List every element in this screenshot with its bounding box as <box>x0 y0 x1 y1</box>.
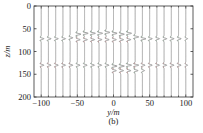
trace <box>90 6 95 97</box>
trace <box>185 6 188 97</box>
x-tick-label: −100 <box>32 98 50 108</box>
trace <box>76 6 81 97</box>
trace <box>170 6 174 97</box>
y-tick-label: 100 <box>18 47 31 57</box>
trace <box>97 6 102 97</box>
trace-line <box>126 6 131 97</box>
y-tick-label: 0 <box>27 1 31 11</box>
y-tick-label: 50 <box>23 24 32 34</box>
y-axis-label: z/m <box>2 46 12 59</box>
trace <box>119 6 125 97</box>
trace-line <box>47 6 51 97</box>
trace <box>62 6 66 97</box>
trace <box>177 6 181 97</box>
seismic-wiggle-chart: 050100150200 −100−50050100 z/m y/m (b) <box>0 0 203 133</box>
trace-line <box>185 6 188 97</box>
trace-group <box>40 6 188 97</box>
trace <box>134 6 139 97</box>
x-tick-label: 100 <box>179 98 192 108</box>
x-tick-label: 50 <box>145 98 154 108</box>
trace-line <box>134 6 139 97</box>
trace-line <box>141 6 146 97</box>
trace <box>148 6 152 97</box>
trace <box>126 6 131 97</box>
trace <box>54 6 58 97</box>
y-tick-label: 150 <box>18 69 31 79</box>
trace-line <box>54 6 58 97</box>
trace-line <box>177 6 181 97</box>
trace-line <box>83 6 88 97</box>
trace-line <box>119 6 125 97</box>
y-axis: 050100150200 <box>18 1 193 102</box>
trace-line <box>62 6 66 97</box>
trace-line <box>163 6 167 97</box>
trace <box>83 6 88 97</box>
trace <box>40 6 44 97</box>
trace <box>69 6 73 97</box>
trace <box>112 6 118 97</box>
trace-line <box>112 6 118 97</box>
trace <box>156 6 160 97</box>
trace-line <box>148 6 152 97</box>
trace-line <box>69 6 73 97</box>
x-axis: −100−50050100 <box>32 6 192 108</box>
trace-line <box>76 6 81 97</box>
trace <box>47 6 51 97</box>
trace-line <box>105 6 110 97</box>
trace <box>163 6 167 97</box>
trace-line <box>90 6 95 97</box>
trace-line <box>40 6 44 97</box>
trace <box>141 6 146 97</box>
trace <box>105 6 110 97</box>
x-tick-label: −50 <box>71 98 84 108</box>
trace-line <box>156 6 160 97</box>
trace-line <box>170 6 174 97</box>
figure-caption: (b) <box>109 116 119 126</box>
trace-line <box>97 6 102 97</box>
y-tick-label: 200 <box>18 92 31 102</box>
